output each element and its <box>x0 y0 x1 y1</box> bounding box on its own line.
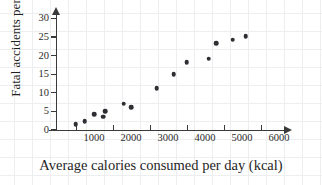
x-axis-label: Average calories consumed per day (kcal) <box>0 157 322 174</box>
x-tick-2000 <box>113 125 114 131</box>
x-axis-line <box>49 130 287 131</box>
y-tick-label-5: 5 <box>44 106 49 117</box>
x-tick-3000 <box>150 125 151 131</box>
x-tick-label-1000: 1000 <box>84 133 105 144</box>
x-tick-label-3000: 3000 <box>158 133 179 144</box>
x-tick-label-6000: 6000 <box>269 133 290 144</box>
y-axis-label-container: Fatal accidents per day <box>6 0 24 107</box>
y-axis-label: Fatal accidents per day <box>8 0 23 97</box>
data-point <box>101 114 106 119</box>
y-axis-arrow-icon <box>52 7 60 15</box>
y-tick-label-20: 20 <box>39 51 50 62</box>
y-tick-label-30: 30 <box>39 13 50 24</box>
y-tick-label-10: 10 <box>39 88 50 99</box>
data-point <box>184 60 189 65</box>
y-tick-0 <box>51 129 57 130</box>
data-point <box>103 109 108 114</box>
x-tick-label-5000: 5000 <box>232 133 253 144</box>
x-tick-6000 <box>261 125 262 131</box>
x-tick-label-4000: 4000 <box>195 133 216 144</box>
y-tick-label-25: 25 <box>39 32 50 43</box>
x-tick-label-2000: 2000 <box>121 133 142 144</box>
data-point <box>82 119 87 124</box>
data-point <box>243 34 248 39</box>
scatter-plot-figure: 051015202530 100020003000400050006000 Fa… <box>0 0 322 185</box>
data-point <box>92 112 97 117</box>
data-point <box>129 105 134 110</box>
y-tick-label-0: 0 <box>44 125 49 136</box>
y-tick-20 <box>51 55 57 56</box>
data-point <box>73 122 78 127</box>
y-tick-25 <box>51 36 57 37</box>
y-tick-5 <box>51 111 57 112</box>
data-point <box>121 101 126 106</box>
data-point <box>155 86 160 91</box>
data-point <box>230 37 235 42</box>
y-tick-30 <box>51 18 57 19</box>
y-tick-10 <box>51 92 57 93</box>
data-point <box>171 72 176 77</box>
x-tick-4000 <box>187 125 188 131</box>
data-point <box>214 41 219 46</box>
y-tick-15 <box>51 74 57 75</box>
y-axis-line <box>56 13 57 131</box>
data-point <box>206 56 211 61</box>
x-tick-5000 <box>224 125 225 131</box>
y-tick-label-15: 15 <box>39 69 50 80</box>
